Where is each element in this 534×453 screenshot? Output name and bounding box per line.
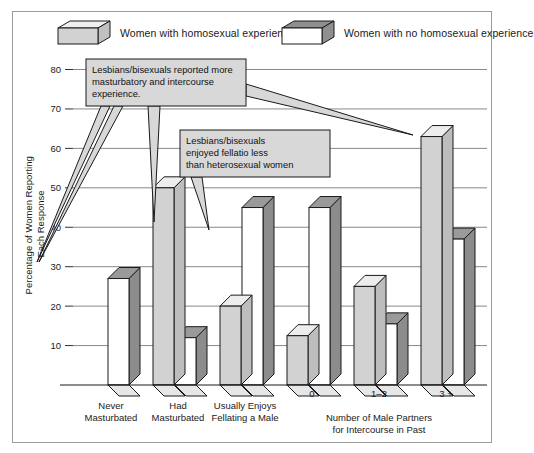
figure-frame: Women with homosexual experience Women w… (12, 11, 492, 443)
bar-homosexual-experience (354, 275, 386, 385)
x-axis-tick-label: 0 (309, 388, 314, 399)
callout-group: Lesbians/bisexuals reported moremasturba… (37, 59, 413, 262)
y-tick-label: 60 (50, 143, 61, 154)
y-axis-title: Percentage of Women Reporting Each Respo… (23, 154, 46, 295)
figure-caption (14, 447, 314, 453)
bar-base (108, 385, 140, 396)
y-tick-label: 80 (50, 64, 61, 75)
bar-chart: 1020304050607080 Percentage of Women Rep… (13, 12, 493, 444)
y-tick-label: 50 (50, 182, 61, 193)
bar-homosexual-experience (421, 126, 453, 385)
y-tick-label: 20 (50, 301, 61, 312)
y-tick-label: 10 (50, 340, 61, 351)
x-axis-group-label: Number of Male Partnersfor Intercourse i… (326, 412, 432, 435)
bar-homosexual-experience (287, 325, 319, 385)
bar-homosexual-experience (153, 177, 185, 385)
x-axis-tick-label: HadMasturbated (152, 400, 205, 423)
bar-no-homosexual-experience (108, 268, 140, 385)
x-axis-tick-label: NeverMasturbated (85, 400, 138, 423)
bar-homosexual-experience (220, 295, 252, 385)
y-tick-label: 70 (50, 103, 61, 114)
y-tick-label: 30 (50, 261, 61, 272)
x-axis-tick-label: 1–2 (371, 388, 387, 399)
x-axis-tick-label: Usually EnjoysFellating a Male (211, 400, 278, 423)
chart-svg: 1020304050607080 Percentage of Women Rep… (13, 12, 493, 444)
x-axis-tick-label: 3 + (439, 388, 453, 399)
x-axis-group-label-text: Number of Male Partnersfor Intercourse i… (326, 412, 432, 435)
